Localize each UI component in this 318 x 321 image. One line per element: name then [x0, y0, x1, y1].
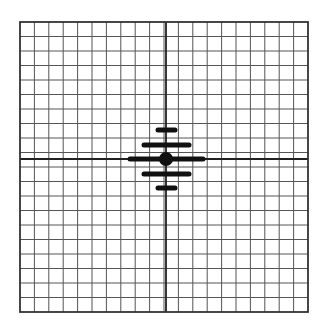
grid-lines — [20, 22, 308, 312]
grid-diagram — [0, 0, 318, 321]
center-dot-icon — [159, 152, 173, 166]
